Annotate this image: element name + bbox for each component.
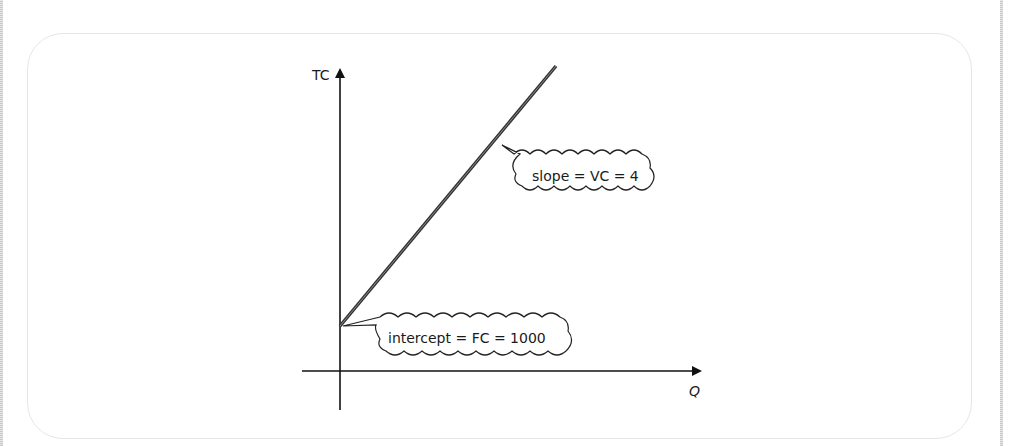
y-axis-label: TC bbox=[311, 67, 330, 83]
tc-line-inner bbox=[340, 66, 556, 326]
slope-callout-text: slope = VC = 4 bbox=[532, 168, 639, 184]
x-axis-label: Q bbox=[689, 383, 700, 399]
tc-chart: TC Q slope = VC = 4 intercept = FC = 100… bbox=[0, 0, 1020, 446]
slope-callout: slope = VC = 4 bbox=[502, 145, 654, 190]
intercept-callout: intercept = FC = 1000 bbox=[343, 313, 572, 355]
intercept-callout-text: intercept = FC = 1000 bbox=[388, 330, 546, 346]
